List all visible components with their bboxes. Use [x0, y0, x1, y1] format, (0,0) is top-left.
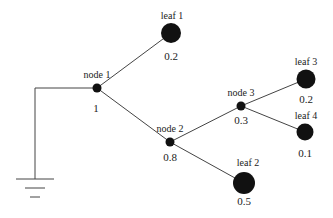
- node-3-label: node 3: [228, 87, 255, 98]
- leaf-3: [297, 70, 316, 89]
- leaf-1-value: 0.2: [164, 50, 178, 62]
- leaf-2: [233, 172, 255, 194]
- node-2: [166, 138, 175, 147]
- leaf-2-label: leaf 2: [237, 157, 260, 168]
- node-3-value: 0.3: [234, 114, 248, 126]
- leaf-1-label: leaf 1: [161, 10, 184, 21]
- ground-icon: [16, 179, 54, 197]
- leaf-3-value: 0.2: [299, 93, 313, 105]
- edge-node2-leaf2: [170, 142, 244, 183]
- node-1-value: 1: [93, 102, 99, 114]
- leaf-4: [297, 124, 314, 141]
- leaf-4-label: leaf 4: [295, 110, 318, 121]
- leaf-4-value: 0.1: [298, 147, 312, 159]
- node-1-label: node 1: [84, 69, 111, 80]
- node-2-label: node 2: [157, 123, 184, 134]
- node-3: [237, 102, 246, 111]
- leaf-1: [161, 23, 181, 43]
- leaf-3-label: leaf 3: [295, 56, 318, 67]
- leaf-2-value: 0.5: [237, 195, 251, 207]
- edge-ground-node1: [35, 88, 97, 179]
- node-1: [93, 84, 102, 93]
- tree-diagram: node 1 1 node 2 0.8 node 3 0.3 leaf 1 0.…: [0, 0, 333, 218]
- node-2-value: 0.8: [163, 151, 177, 163]
